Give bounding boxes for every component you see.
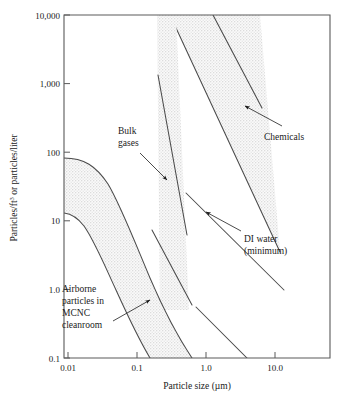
chart-figure: 10,000 1,000 100 10 1.0 0.1 0.01 0.1 1.0… — [0, 0, 340, 398]
y-axis-title-suffix: or particles/liter — [9, 134, 19, 198]
airborne-label-line2: particles in — [62, 296, 104, 306]
y-axis-tick-labels: 10,000 1,000 100 10 1.0 0.1 — [35, 11, 60, 364]
y-tick-label-10: 10 — [51, 216, 61, 226]
particle-size-distribution-chart: 10,000 1,000 100 10 1.0 0.1 0.01 0.1 1.0… — [0, 0, 340, 398]
y-tick-label-1: 1.0 — [49, 285, 61, 295]
y-tick-label-10000: 10,000 — [35, 11, 60, 21]
y-tick-label-100: 100 — [47, 148, 61, 158]
bulk-gases-label-line2: gases — [118, 138, 139, 148]
svg-text:Particles/ft3 or particles/lit: Particles/ft3 or particles/liter — [8, 134, 19, 242]
di-water-label-line1: DI water — [244, 234, 278, 244]
y-tick-label-1000: 1,000 — [40, 79, 61, 89]
airborne-label-line1: Airborne — [62, 284, 96, 294]
di-water-label-line2: (minimum) — [244, 246, 287, 257]
y-tick-label-0.1: 0.1 — [49, 354, 60, 364]
x-tick-label-0.01: 0.01 — [60, 363, 76, 373]
x-tick-label-10.0: 10.0 — [267, 363, 283, 373]
bulk-gases-label-line1: Bulk — [118, 126, 137, 136]
airborne-label-line4: cleanroom — [62, 320, 103, 330]
airborne-label-line3: MCNC — [62, 308, 90, 318]
y-axis-title: Particles/ft3 or particles/liter — [8, 134, 19, 242]
x-axis-tick-labels: 0.01 0.1 1.0 10.0 — [60, 363, 283, 373]
x-axis-title: Particle size (µm) — [163, 381, 231, 392]
x-tick-label-0.1: 0.1 — [131, 363, 142, 373]
chemicals-label: Chemicals — [264, 132, 304, 142]
x-tick-label-1.0: 1.0 — [200, 363, 212, 373]
y-axis-title-prefix: Particles/ft — [9, 200, 19, 242]
